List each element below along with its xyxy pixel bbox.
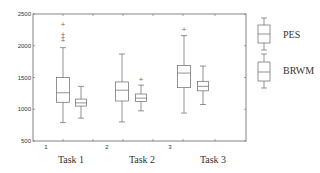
box-brwm-2: + — [136, 75, 147, 110]
boxes: ++++++ — [57, 20, 209, 123]
box-brwm-3 — [198, 66, 209, 104]
legend: PESBRWM — [258, 18, 314, 88]
category-label: Task 2 — [129, 154, 155, 165]
labels: 123Task 1Task 2Task 3 — [44, 144, 226, 165]
box-pes-1: ++++ — [57, 20, 70, 123]
category-label: Task 1 — [58, 154, 84, 165]
outlier-marker: + — [181, 25, 186, 32]
boxplot-chart: 5001000150020002500 ++++++ 123Task 1Task… — [0, 0, 320, 173]
legend-label: BRWM — [283, 65, 314, 76]
outlier-marker: + — [60, 20, 65, 27]
box-iqr — [57, 78, 70, 103]
axes: 5001000150020002500 — [18, 11, 246, 144]
box-iqr — [178, 65, 191, 87]
legend-label: PES — [283, 29, 300, 40]
legend-box-swatch — [258, 62, 270, 81]
x-number-label: 3 — [168, 144, 172, 150]
legend-item-brwm: BRWM — [258, 54, 314, 88]
box-brwm-1 — [76, 86, 87, 118]
x-number-label: 2 — [105, 144, 109, 150]
legend-item-pes: PES — [258, 18, 300, 50]
y-tick-label: 500 — [21, 138, 32, 144]
y-tick-label: 2500 — [18, 11, 32, 17]
outlier-marker: + — [138, 75, 143, 82]
box-iqr — [116, 82, 129, 101]
y-tick-label: 1500 — [18, 75, 32, 81]
category-label: Task 3 — [200, 154, 226, 165]
y-tick-label: 2000 — [18, 43, 32, 49]
box-pes-2 — [116, 54, 129, 122]
x-number-label: 1 — [44, 144, 48, 150]
outlier-marker: + — [60, 30, 65, 37]
y-tick-label: 1000 — [18, 106, 32, 112]
box-pes-3: + — [178, 25, 191, 113]
